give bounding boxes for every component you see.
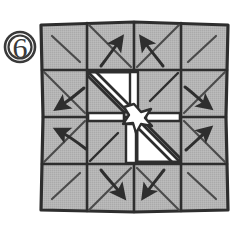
diagram-page: 6 bbox=[0, 0, 236, 236]
origami-step-diagram: 6 bbox=[0, 0, 236, 236]
center-slot-left bbox=[88, 113, 124, 121]
step-number-badge: 6 bbox=[5, 31, 35, 64]
center-slot-right bbox=[146, 113, 180, 121]
folded-paper-square bbox=[41, 22, 228, 212]
step-number-label: 6 bbox=[13, 31, 28, 64]
